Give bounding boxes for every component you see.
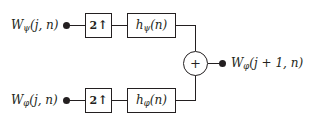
- summing-junction: +: [183, 51, 208, 76]
- approximation-input-terminal-dot: [63, 97, 70, 104]
- filter-psi-box: hψ(n): [127, 13, 176, 38]
- up-arrow-icon: ↑: [98, 94, 108, 106]
- detail-input-subscript: ψ: [23, 23, 30, 33]
- detail-input-arguments: (j, n): [30, 18, 58, 32]
- plus-icon: +: [190, 56, 201, 71]
- filter-phi-symbol: h: [136, 93, 144, 107]
- filter-phi-arguments: (n): [150, 93, 167, 107]
- filter-phi-box: hφ(n): [127, 88, 176, 113]
- approximation-input-label: Wφ(j, n): [11, 94, 58, 108]
- upsampler-bottom-factor: 2: [89, 94, 97, 107]
- output-terminal-dot: [219, 60, 226, 67]
- reconstructed-output-label: Wφ(j + 1, n): [231, 57, 303, 71]
- output-arguments: (j + 1, n): [249, 56, 303, 70]
- wavelet-synthesis-diagram: Wψ(j, n) 2↑ hψ(n) + Wφ(j + 1, n) Wφ(j, n…: [0, 0, 314, 126]
- detail-input-symbol: W: [11, 18, 23, 32]
- upsampler-top: 2↑: [85, 13, 112, 38]
- approximation-input-arguments: (j, n): [29, 93, 57, 107]
- detail-input-label: Wψ(j, n): [11, 19, 58, 33]
- upsampler-bottom: 2↑: [85, 88, 112, 113]
- output-symbol: W: [231, 56, 243, 70]
- filter-psi-arguments: (n): [150, 18, 167, 32]
- approximation-input-symbol: W: [11, 93, 23, 107]
- up-arrow-icon: ↑: [98, 19, 108, 31]
- detail-input-terminal-dot: [63, 22, 70, 29]
- upsampler-top-factor: 2: [89, 19, 97, 32]
